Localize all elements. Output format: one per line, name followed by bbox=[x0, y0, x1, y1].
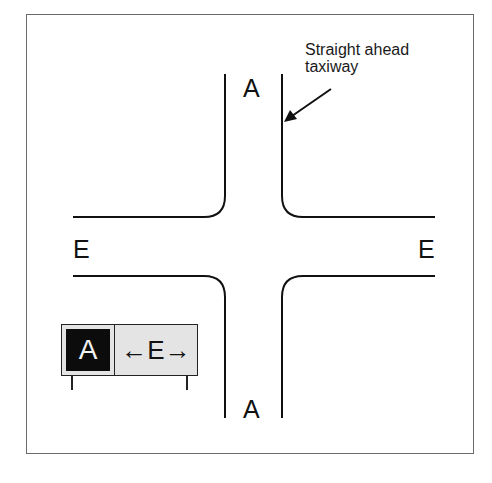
location-sign-panel: A bbox=[62, 325, 115, 375]
edge-top-left bbox=[73, 74, 225, 217]
label-left-taxiway: E bbox=[73, 237, 90, 262]
location-sign-text: A bbox=[66, 329, 110, 371]
label-right-taxiway: E bbox=[418, 237, 435, 262]
label-bottom-taxiway: A bbox=[243, 397, 260, 422]
edge-top-right bbox=[282, 74, 435, 217]
direction-sign-text: ←E→ bbox=[115, 325, 197, 375]
taxiway-sign: A ←E→ bbox=[61, 324, 198, 376]
callout-arrow-icon bbox=[284, 89, 331, 122]
sign-post-right bbox=[186, 376, 188, 390]
callout-line-1: Straight ahead bbox=[305, 41, 409, 58]
label-top-taxiway: A bbox=[243, 76, 260, 101]
edge-bottom-right bbox=[282, 276, 435, 418]
callout-text: Straight ahead taxiway bbox=[305, 41, 409, 75]
callout-line-2: taxiway bbox=[305, 58, 409, 75]
sign-post-left bbox=[71, 376, 73, 390]
